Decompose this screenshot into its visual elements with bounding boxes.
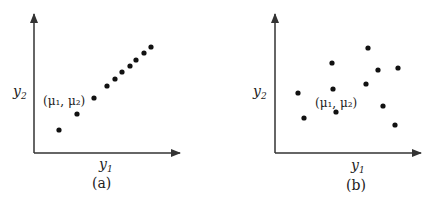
data-point — [91, 95, 96, 100]
data-point — [133, 57, 138, 62]
data-point — [74, 111, 79, 116]
caption-a: (a) — [92, 175, 111, 191]
y-axis-label-b: y2 — [252, 83, 267, 101]
data-point — [295, 90, 300, 95]
data-point — [119, 69, 124, 74]
data-point — [148, 44, 153, 49]
x-axis-label-a: y1 — [98, 156, 113, 174]
data-point — [380, 103, 385, 108]
data-point — [333, 109, 338, 114]
panel-a: y2 y1 (μ₁, μ₂) (a) — [12, 14, 180, 191]
mean-label-a: (μ₁, μ₂) — [43, 94, 85, 108]
data-point — [104, 83, 109, 88]
data-point — [329, 60, 334, 65]
data-point — [330, 86, 335, 91]
data-point — [365, 45, 370, 50]
data-point — [395, 65, 400, 70]
points-b — [295, 45, 400, 127]
mean-label-b: (μ₁, μ₂) — [315, 96, 357, 110]
caption-b: (b) — [346, 177, 366, 193]
x-axis-label-b: y1 — [350, 157, 365, 175]
data-point — [141, 50, 146, 55]
figure: y2 y1 (μ₁, μ₂) (a) y2 y1 (μ₁, μ₂) (b) — [0, 0, 435, 206]
data-point — [375, 67, 380, 72]
data-point — [56, 127, 61, 132]
data-point — [363, 81, 368, 86]
points-a — [56, 44, 153, 132]
panel-b: y2 y1 (μ₁, μ₂) (b) — [252, 14, 421, 193]
data-point — [112, 76, 117, 81]
y-axis-label-a: y2 — [12, 83, 27, 101]
data-point — [392, 122, 397, 127]
data-point — [301, 115, 306, 120]
data-point — [127, 63, 132, 68]
